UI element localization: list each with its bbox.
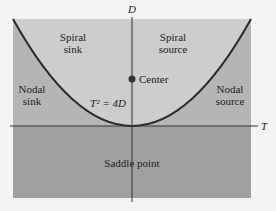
saddle-point-label: Saddle point — [96, 157, 168, 169]
nodal-source-label: Nodalsource — [210, 83, 250, 107]
d-axis-label: D — [126, 3, 138, 15]
t-axis-label: T — [258, 120, 270, 132]
spiral-source-label: Spiralsource — [150, 31, 196, 55]
center-label: Center — [139, 73, 168, 85]
center-point — [129, 76, 136, 83]
curve-equation-label: T² = 4D — [88, 97, 128, 109]
nodal-sink-label: Nodalsink — [14, 83, 50, 107]
spiral-sink-label: Spiralsink — [50, 31, 96, 55]
